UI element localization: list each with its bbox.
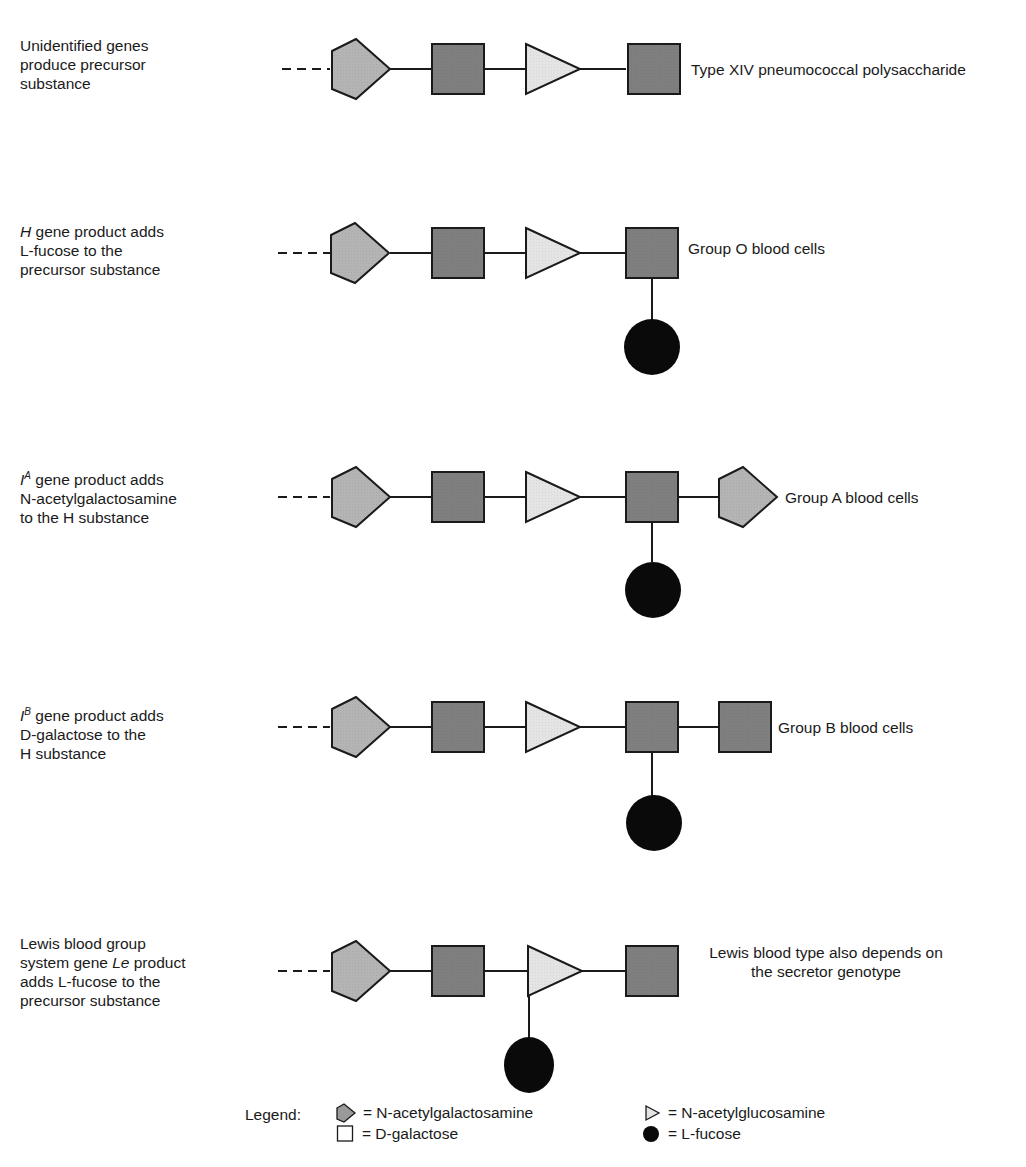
legend-label: = N-acetylgalactosamine (363, 1104, 533, 1122)
n-acetylgalactosamine-pentagon (719, 467, 777, 527)
n-acetylglucosamine-triangle (526, 228, 580, 278)
n-acetylgalactosamine-pentagon (332, 697, 390, 757)
legend-item-galnac: = N-acetylgalactosamine (335, 1103, 533, 1123)
legend-label: = L-fucose (668, 1125, 741, 1143)
legend-item-galactose: = D-galactose (336, 1124, 458, 1144)
n-acetylglucosamine-triangle (526, 44, 580, 94)
n-acetylglucosamine-triangle (528, 946, 582, 996)
d-galactose-square (626, 946, 678, 996)
n-acetylgalactosamine-pentagon (332, 941, 390, 1001)
d-galactose-square (432, 946, 484, 996)
d-galactose-square (626, 228, 678, 278)
d-galactose-square (628, 44, 680, 94)
l-fucose-circle (625, 562, 681, 618)
legend-item-fucose: = L-fucose (642, 1124, 741, 1144)
l-fucose-circle (626, 795, 682, 851)
legend-label: = D-galactose (362, 1125, 458, 1143)
d-galactose-square (432, 702, 484, 752)
n-acetylglucosamine-triangle (526, 702, 580, 752)
triangle-icon (644, 1103, 662, 1123)
n-acetylgalactosamine-pentagon (332, 467, 390, 527)
n-acetylgalactosamine-pentagon (332, 39, 390, 99)
l-fucose-circle (624, 319, 680, 375)
d-galactose-square (719, 702, 771, 752)
chain-row-group-b (278, 697, 771, 851)
d-galactose-square (432, 44, 484, 94)
d-galactose-square (432, 472, 484, 522)
l-fucose-circle (504, 1037, 554, 1093)
circle-icon (642, 1124, 662, 1144)
glycan-diagram (0, 0, 1026, 1167)
legend-label: = N-acetylglucosamine (668, 1104, 825, 1122)
legend-title: Legend: (245, 1106, 301, 1124)
legend-item-glcnac: = N-acetylglucosamine (644, 1103, 825, 1123)
n-acetylglucosamine-triangle (526, 472, 580, 522)
square-icon (336, 1124, 356, 1144)
d-galactose-square (432, 228, 484, 278)
pentagon-icon (335, 1103, 357, 1123)
chain-row-group-a (278, 467, 777, 618)
chain-row-group-o (278, 223, 680, 375)
chain-row-precursor (282, 39, 680, 99)
d-galactose-square (626, 472, 678, 522)
n-acetylgalactosamine-pentagon (331, 223, 389, 283)
chain-row-lewis (278, 941, 678, 1093)
d-galactose-square (626, 702, 678, 752)
